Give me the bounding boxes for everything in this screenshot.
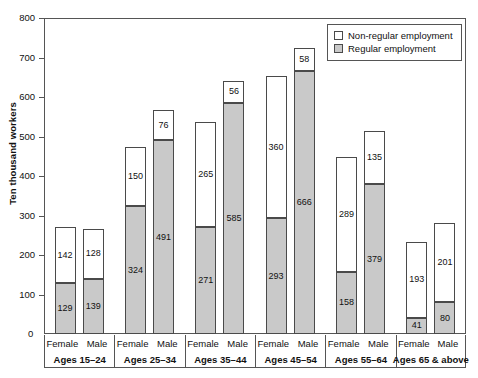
x-label-age-group: Ages 15–24: [45, 351, 114, 367]
bar-segment-nonregular: 142: [55, 227, 76, 283]
x-label-female: Female: [186, 338, 221, 349]
y-tick-label: 500: [19, 131, 35, 142]
x-group-ages-45-54: FemaleMaleAges 45–54: [255, 335, 325, 368]
bar-segment-nonregular: 289: [336, 157, 357, 271]
bar-segment-regular: 129: [55, 283, 76, 334]
x-label-age-group: Ages 25–34: [115, 351, 184, 367]
bar-segment-nonregular: 58: [294, 48, 315, 71]
legend-item-nonregular: Non-regular employment: [334, 29, 453, 42]
chart-container: Ten thousand workers 1002003004005006007…: [0, 0, 478, 378]
x-group-ages-25-34: FemaleMaleAges 25–34: [114, 335, 184, 368]
bar-value-regular: 139: [86, 302, 101, 311]
bar-segment-regular: 271: [195, 227, 216, 334]
bar-ages-25-34-male: 49176: [153, 110, 174, 334]
x-label-male: Male: [80, 338, 115, 349]
bar-segment-nonregular: 56: [223, 81, 244, 103]
x-label-female: Female: [397, 338, 431, 349]
x-group-sex-labels: FemaleMale: [186, 335, 255, 351]
bar-segment-nonregular: 201: [434, 223, 455, 302]
x-label-female: Female: [115, 338, 150, 349]
bar-ages-25-34-female: 324150: [125, 147, 146, 334]
bar-value-regular: 379: [367, 255, 382, 264]
x-group-sex-labels: FemaleMale: [326, 335, 395, 351]
x-label-male: Male: [150, 338, 185, 349]
bar-segment-regular: 80: [434, 302, 455, 334]
x-label-male: Male: [220, 338, 255, 349]
bar-value-nonregular: 265: [198, 170, 213, 179]
bar-value-nonregular: 58: [299, 55, 309, 64]
x-label-female: Female: [256, 338, 291, 349]
legend-label-regular: Regular employment: [348, 43, 436, 54]
y-tick-label: 800: [19, 12, 35, 23]
bar-value-regular: 666: [297, 198, 312, 207]
bar-segment-regular: 379: [364, 184, 385, 334]
bar-value-regular: 324: [128, 266, 143, 275]
x-label-male: Male: [361, 338, 396, 349]
bar-value-regular: 293: [269, 272, 284, 281]
y-tick-label: 700: [19, 52, 35, 63]
y-tick-label: 400: [19, 170, 35, 181]
x-group-ages-35-44: FemaleMaleAges 35–44: [185, 335, 255, 368]
bar-segment-regular: 324: [125, 206, 146, 334]
bar-segment-nonregular: 76: [153, 110, 174, 140]
x-group-sex-labels: FemaleMale: [256, 335, 325, 351]
bar-value-regular: 80: [440, 314, 450, 323]
x-label-female: Female: [45, 338, 80, 349]
bar-ages-65-above-male: 80201: [434, 223, 455, 334]
bars-layer: 1291421391283241504917627126558556293360…: [44, 18, 466, 334]
x-label-female: Female: [326, 338, 361, 349]
bar-ages-15-24-female: 129142: [55, 227, 76, 334]
bar-ages-35-44-female: 271265: [195, 122, 216, 334]
legend: Non-regular employment Regular employmen…: [327, 24, 462, 61]
bar-value-nonregular: 150: [128, 172, 143, 181]
bar-segment-regular: 139: [83, 279, 104, 334]
bar-segment-nonregular: 360: [266, 76, 287, 218]
bar-ages-35-44-male: 58556: [223, 81, 244, 334]
x-label-male: Male: [431, 338, 465, 349]
y-tick-label: 600: [19, 91, 35, 102]
x-group-ages-15-24: FemaleMaleAges 15–24: [44, 335, 114, 368]
x-label-age-group: Ages 55–64: [326, 351, 395, 367]
x-axis-group-labels: FemaleMaleAges 15–24FemaleMaleAges 25–34…: [44, 335, 466, 368]
bar-segment-regular: 585: [223, 103, 244, 334]
bar-segment-nonregular: 135: [364, 131, 385, 184]
x-label-age-group: Ages 65 & above: [397, 351, 465, 367]
legend-swatch-nonregular-icon: [334, 31, 343, 40]
bar-value-nonregular: 142: [58, 251, 73, 260]
bar-segment-regular: 41: [406, 318, 427, 334]
bar-segment-regular: 491: [153, 140, 174, 334]
bar-value-nonregular: 76: [159, 121, 169, 130]
legend-swatch-regular-icon: [334, 44, 343, 53]
legend-label-nonregular: Non-regular employment: [348, 30, 453, 41]
bar-segment-nonregular: 150: [125, 147, 146, 206]
bar-ages-65-above-female: 41193: [406, 242, 427, 334]
bar-segment-nonregular: 193: [406, 242, 427, 318]
bar-value-regular: 158: [339, 298, 354, 307]
x-group-sex-labels: FemaleMale: [115, 335, 184, 351]
legend-item-regular: Regular employment: [334, 42, 453, 55]
bar-value-regular: 41: [412, 321, 422, 330]
x-label-age-group: Ages 45–54: [256, 351, 325, 367]
bar-value-regular: 585: [226, 214, 241, 223]
y-tick-label: 100: [19, 289, 35, 300]
bar-value-regular: 271: [198, 276, 213, 285]
x-label-age-group: Ages 35–44: [186, 351, 255, 367]
bar-value-nonregular: 56: [229, 87, 239, 96]
bar-segment-nonregular: 128: [83, 229, 104, 280]
bar-segment-regular: 666: [294, 71, 315, 334]
x-group-ages-65-above: FemaleMaleAges 65 & above: [396, 335, 466, 368]
x-label-male: Male: [291, 338, 326, 349]
bar-ages-45-54-male: 66658: [294, 48, 315, 334]
bar-ages-55-64-female: 158289: [336, 157, 357, 334]
y-axis-title: Ten thousand workers: [7, 89, 18, 219]
bar-ages-45-54-female: 293360: [266, 76, 287, 334]
bar-value-regular: 491: [156, 233, 171, 242]
y-tick-label-zero: 0: [28, 328, 33, 339]
y-tick-label: 300: [19, 210, 35, 221]
x-group-ages-55-64: FemaleMaleAges 55–64: [325, 335, 395, 368]
bar-value-nonregular: 135: [367, 153, 382, 162]
x-group-sex-labels: FemaleMale: [45, 335, 114, 351]
y-tick-label: 200: [19, 249, 35, 260]
bar-value-nonregular: 201: [437, 258, 452, 267]
bar-value-nonregular: 128: [86, 249, 101, 258]
